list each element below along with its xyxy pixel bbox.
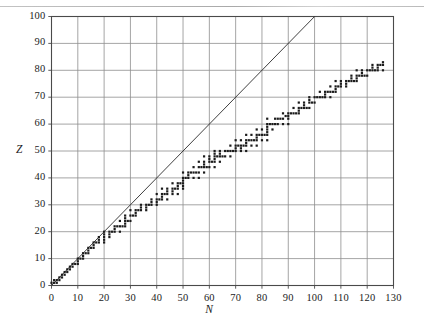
data-point [156,204,158,206]
data-point [298,107,300,109]
data-point [208,161,210,163]
data-point [69,268,71,270]
data-point [203,166,205,168]
data-point [190,171,192,173]
data-point [182,188,184,190]
data-point [77,258,79,260]
data-point [156,201,158,203]
data-point [377,69,379,71]
data-point [219,161,221,163]
data-point [166,193,168,195]
data-point [114,228,116,230]
data-point [53,279,55,281]
y-tick-label: 60 [16,117,46,128]
data-point [71,263,73,265]
data-point [329,91,331,93]
data-point [235,145,237,147]
y-tick-label: 0 [16,279,46,290]
data-point [182,182,184,184]
data-point [245,150,247,152]
data-point [61,274,63,276]
data-point [214,166,216,168]
data-point [308,99,310,101]
data-point [177,185,179,187]
data-point [271,123,273,125]
data-point [174,188,176,190]
data-point [232,150,234,152]
data-point [56,282,58,284]
data-point [266,139,268,141]
data-point [82,252,84,254]
data-point [358,75,360,77]
data-point [98,241,100,243]
data-point [219,153,221,155]
data-point [324,96,326,98]
data-point [148,204,150,206]
data-point [208,166,210,168]
data-point [298,112,300,114]
data-point [235,139,237,141]
data-point [214,150,216,152]
data-point [345,83,347,85]
plot-canvas [0,0,424,325]
data-point [269,123,271,125]
grid-lines [52,17,394,286]
data-point [366,75,368,77]
data-point [356,69,358,71]
data-point [319,96,321,98]
data-point [87,249,89,251]
data-point [198,177,200,179]
data-point [82,255,84,257]
data-point [61,276,63,278]
y-axis-title: Z [16,143,22,155]
data-point [116,225,118,227]
data-point [161,198,163,200]
data-point [371,64,373,66]
data-point [108,233,110,235]
data-point [329,96,331,98]
data-point [90,247,92,249]
data-point [221,155,223,157]
data-point [227,150,229,152]
data-point [261,139,263,141]
data-point [371,67,373,69]
data-point [345,85,347,87]
data-point [242,145,244,147]
data-point [171,182,173,184]
data-point [313,101,315,103]
data-point [135,214,137,216]
data-point [313,96,315,98]
data-point [382,61,384,63]
data-point [240,139,242,141]
data-point [77,263,79,265]
data-point [348,80,350,82]
data-point [156,193,158,195]
data-point [308,101,310,103]
data-point [124,217,126,219]
data-point [295,112,297,114]
data-point [300,107,302,109]
data-point [56,279,58,281]
data-point [171,190,173,192]
data-point [208,155,210,157]
data-point [335,88,337,90]
data-point [256,139,258,141]
data-point [240,145,242,147]
data-point [129,220,131,222]
data-point [235,150,237,152]
data-point [74,263,76,265]
data-point [274,123,276,125]
data-point [114,225,116,227]
data-point [271,128,273,130]
data-point [140,209,142,211]
data-point [203,155,205,157]
data-point [298,101,300,103]
data-point [161,188,163,190]
data-point [108,231,110,233]
data-point [98,239,100,241]
data-point [229,155,231,157]
data-point [266,134,268,136]
data-point [219,150,221,152]
data-point [98,236,100,238]
data-point [350,80,352,82]
